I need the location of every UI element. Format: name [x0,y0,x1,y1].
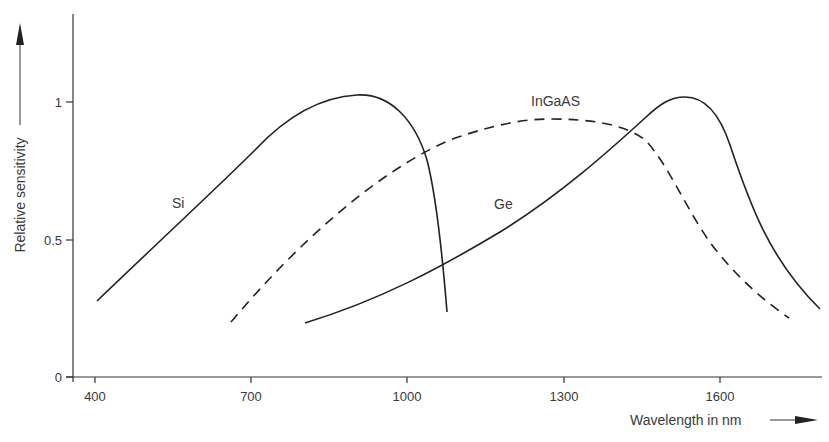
x-tick-1300: 1300 [550,389,579,404]
y-axis-arrow-icon [16,23,24,45]
sensitivity-chart: 1 0.5 0 Relative sensitivity 400 700 100… [0,0,829,442]
x-tick-400: 400 [84,389,106,404]
x-tick-700: 700 [240,389,262,404]
series-label-ingaas: InGaAS [531,93,580,109]
x-tick-1600: 1600 [706,389,735,404]
x-axis-title: Wavelength in nm [630,412,742,428]
y-axis-title-group: Relative sensitivity [12,23,28,253]
x-axis-arrow-icon [795,416,818,424]
y-tick-1: 1 [55,95,62,110]
series-ingaas-line [231,119,789,322]
y-axis: 1 0.5 0 [44,14,73,385]
y-tick-0.5: 0.5 [44,233,62,248]
x-tick-1000: 1000 [393,389,422,404]
series-si-line [97,95,447,312]
x-axis: 400 700 1000 1300 1600 [66,377,822,404]
series-label-ge: Ge [494,196,513,212]
y-tick-0: 0 [55,370,62,385]
x-axis-title-group: Wavelength in nm [630,412,818,428]
y-axis-title: Relative sensitivity [12,137,28,252]
series-ge-line [305,97,820,323]
series-label-si: Si [172,195,184,211]
